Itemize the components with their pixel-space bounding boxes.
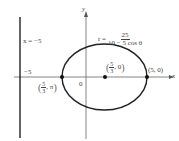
tick-label-neg5: −5 (24, 69, 31, 76)
right-vertex-point (145, 75, 149, 79)
equation-label: r = 25 10 − 5 cos θ (98, 32, 142, 47)
left-vertex-label: (53, π) (38, 81, 57, 94)
left-vertex-point (60, 75, 64, 79)
focus-point (103, 75, 107, 79)
equation-denominator: 10 − 5 cos θ (108, 40, 142, 47)
y-axis-label: y (82, 6, 85, 13)
origin-label: 0 (79, 81, 83, 88)
focus-label: (53, 0) (106, 61, 125, 74)
directrix-label: x = −5 (23, 38, 41, 45)
equation-lhs: r = (98, 36, 106, 43)
x-axis-label: x (172, 73, 175, 80)
right-vertex-label: (5, 0) (148, 67, 163, 74)
